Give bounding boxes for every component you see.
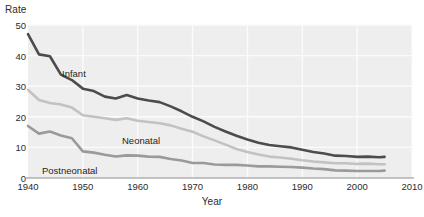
y-tick-label-30: 30 <box>0 81 26 92</box>
series-label-infant: Infant <box>62 68 86 79</box>
x-tick-label-1960: 1960 <box>127 181 148 192</box>
infant-mortality-line-chart: Rate 01020304050 19401950196019701980199… <box>0 0 424 217</box>
x-tick-label-1990: 1990 <box>292 181 313 192</box>
x-tick-label-1950: 1950 <box>72 181 93 192</box>
series-label-neonatal: Neonatal <box>122 135 160 146</box>
y-tick-label-40: 40 <box>0 50 26 61</box>
x-tick-label-1980: 1980 <box>237 181 258 192</box>
x-tick-label-1940: 1940 <box>17 181 38 192</box>
x-tick-label-1970: 1970 <box>182 181 203 192</box>
x-tick-label-2010: 2010 <box>401 181 422 192</box>
y-tick-label-10: 10 <box>0 142 26 153</box>
plot-background-group <box>28 25 412 178</box>
y-tick-label-50: 50 <box>0 20 26 31</box>
y-tick-label-20: 20 <box>0 111 26 122</box>
series-label-postneonatal: Postneonatal <box>42 165 97 176</box>
x-tick-label-2000: 2000 <box>347 181 368 192</box>
x-axis-title: Year <box>0 196 424 207</box>
